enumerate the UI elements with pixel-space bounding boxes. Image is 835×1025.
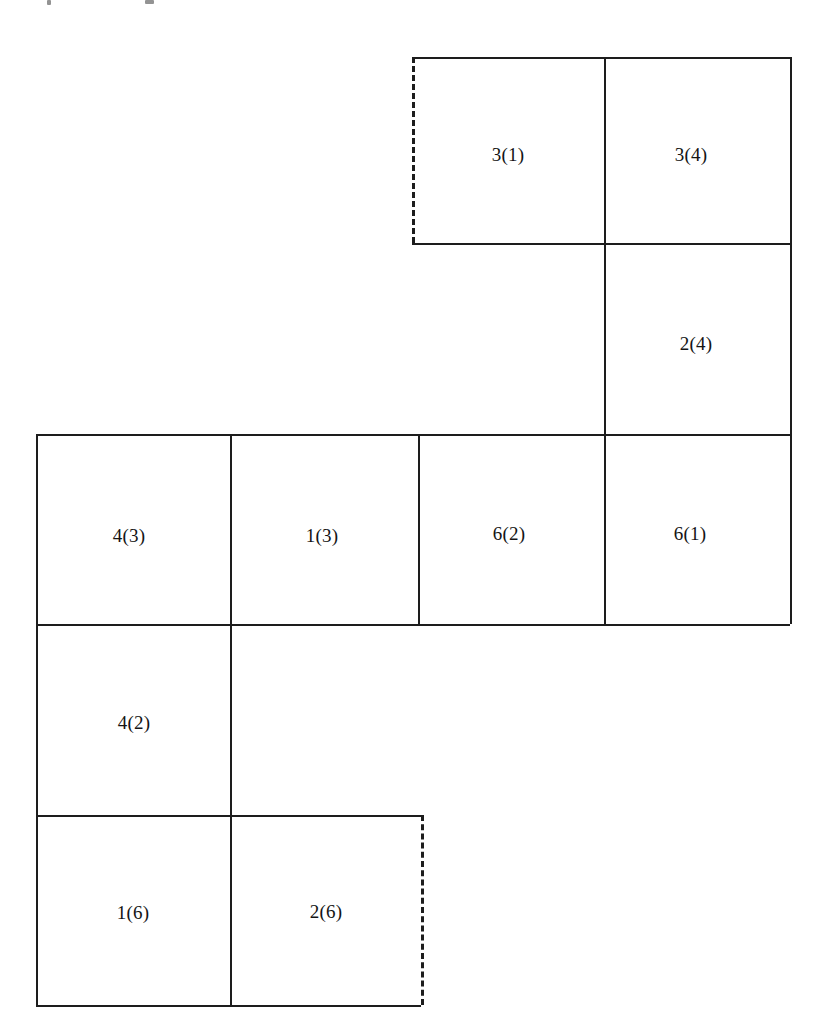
- v-col2-divider-middle: [418, 434, 420, 624]
- cell-label-cell-4-2: 4(2): [118, 713, 150, 732]
- h-bottom-edge: [36, 1005, 421, 1007]
- v-left-edge-lower: [36, 434, 38, 1005]
- cell-label-cell-6-2: 6(2): [493, 524, 525, 543]
- partial-glyph-right: [145, 0, 154, 4]
- diagram-canvas: 3(1)3(4)2(4)4(3)1(3)6(2)6(1)4(2)1(6)2(6): [0, 0, 835, 1025]
- h-top-middle-row: [36, 434, 790, 436]
- h-under-middle-row: [36, 624, 790, 626]
- h-top-upper-block: [412, 57, 790, 59]
- v-right-edge: [790, 57, 792, 624]
- cell-label-cell-3-4: 3(4): [675, 145, 707, 164]
- v-col3-divider-upper: [604, 57, 606, 624]
- v-dashed-left-of-3-1: [412, 57, 415, 243]
- v-dashed-right-of-2-6: [421, 815, 424, 1005]
- h-under-upper-block: [412, 243, 790, 245]
- cell-label-cell-3-1: 3(1): [492, 145, 524, 164]
- cell-label-cell-2-4: 2(4): [680, 334, 712, 353]
- partial-glyph-left: [47, 0, 51, 5]
- v-col1-divider: [230, 434, 232, 1005]
- h-above-bottom-row: [36, 815, 421, 817]
- cell-label-cell-4-3: 4(3): [113, 526, 145, 545]
- cell-label-cell-1-3: 1(3): [306, 526, 338, 545]
- cell-label-cell-2-6: 2(6): [310, 902, 342, 921]
- cell-label-cell-6-1: 6(1): [674, 524, 706, 543]
- cell-label-cell-1-6: 1(6): [117, 903, 149, 922]
